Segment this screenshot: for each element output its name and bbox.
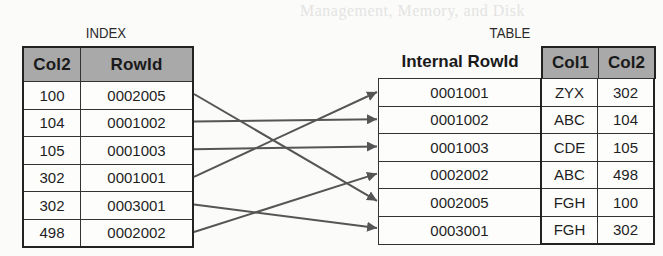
- pointer-arrow: [194, 174, 377, 232]
- pointer-arrow: [194, 119, 377, 121]
- pointer-arrow: [194, 204, 377, 228]
- pointer-arrows: [0, 0, 663, 256]
- pointer-arrow: [194, 146, 377, 149]
- pointer-arrow: [194, 92, 377, 177]
